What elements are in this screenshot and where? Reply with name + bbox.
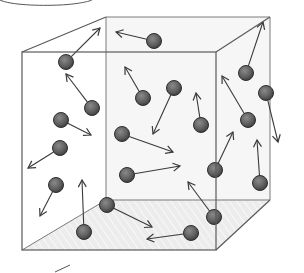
top-curve-decoration [0,0,92,5]
molecule-ball-icon [208,163,223,178]
velocity-arrow-icon [40,192,53,216]
molecule-ball-icon [184,226,199,241]
molecule-ball-icon [53,141,68,156]
molecule [28,141,68,169]
molecule-ball-icon [194,118,209,133]
molecule-ball-icon [59,55,74,70]
molecule-ball-icon [120,168,135,183]
molecule-ball-icon [259,86,274,101]
molecule-ball-icon [77,225,92,240]
molecule-ball-icon [115,127,130,142]
molecule-ball-icon [136,91,151,106]
molecule-ball-icon [54,113,69,128]
velocity-arrow-icon [28,152,54,168]
floor [22,200,270,250]
gas-container-diagram [0,0,304,273]
molecule-ball-icon [167,81,182,96]
molecule-ball-icon [49,178,64,193]
molecule [40,178,64,217]
molecule-ball-icon [241,113,256,128]
molecule-ball-icon [239,66,254,81]
velocity-arrow-icon [66,74,87,102]
molecule [66,74,100,116]
molecule-ball-icon [147,34,162,49]
molecule [54,113,92,136]
molecule-ball-icon [207,210,222,225]
molecule-ball-icon [100,198,115,213]
molecule-ball-icon [85,101,100,116]
molecule-ball-icon [253,176,268,191]
bottom-stroke-decoration [55,265,70,272]
velocity-arrow-icon [68,123,91,135]
